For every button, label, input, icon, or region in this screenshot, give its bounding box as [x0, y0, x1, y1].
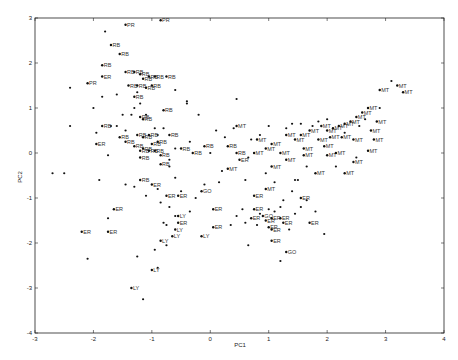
point-label-rb: RB — [121, 51, 129, 57]
point-label-rb: RB — [183, 146, 191, 152]
data-point-marker — [139, 102, 141, 104]
data-point-marker — [326, 118, 328, 120]
y-tick-label: 2 — [29, 60, 33, 66]
data-point-marker — [104, 30, 106, 32]
data-point-marker — [358, 125, 360, 127]
point-label-er: ER — [302, 195, 310, 201]
point-label-er: ER — [83, 229, 91, 235]
data-point-marker — [244, 222, 246, 224]
point-label-mt: MT — [375, 137, 384, 143]
data-point-marker — [107, 154, 109, 156]
data-point-marker — [154, 249, 156, 251]
data-point-marker — [133, 186, 135, 188]
data-point-marker — [69, 87, 71, 89]
point-label-rb: RB — [153, 83, 161, 89]
point-label-mt: MT — [259, 137, 268, 143]
data-point-marker — [189, 210, 191, 212]
data-point-marker — [174, 147, 176, 149]
data-point-marker — [235, 98, 237, 100]
x-tick-label: -3 — [32, 336, 38, 342]
data-point-marker — [390, 80, 392, 82]
point-label-rb: RB — [168, 74, 176, 80]
point-label-rb: RB — [229, 143, 237, 149]
point-label-ly: LY — [203, 233, 210, 239]
point-label-mt: MT — [302, 132, 311, 138]
y-tick-label: 3 — [29, 15, 33, 21]
data-point-marker — [165, 224, 167, 226]
point-label-rb: RB — [150, 132, 158, 138]
data-point-marker — [107, 217, 109, 219]
point-label-mt: MT — [378, 119, 387, 125]
point-label-rb: RB — [142, 155, 150, 161]
point-label-er: ER — [215, 206, 223, 212]
point-label-rb: RB — [104, 123, 112, 129]
data-point-marker — [116, 93, 118, 95]
data-point-marker — [63, 172, 65, 174]
data-point-marker — [282, 199, 284, 201]
point-label-go: GO — [288, 249, 297, 255]
point-label-mt: MT — [288, 132, 297, 138]
point-label-mt: MT — [229, 166, 238, 172]
point-label-mt: MT — [311, 128, 320, 134]
point-label-mt: MT — [405, 89, 414, 95]
point-label-rb: RB — [112, 42, 120, 48]
data-point-marker — [157, 188, 159, 190]
point-label-rb: RB — [206, 143, 214, 149]
point-label-er: ER — [273, 227, 281, 233]
data-point-marker — [294, 179, 296, 181]
point-label-rb: RB — [162, 152, 170, 158]
y-tick-label: 0 — [29, 150, 33, 156]
point-label-ly: LY — [153, 267, 160, 273]
data-point-marker — [291, 123, 293, 125]
point-label-pr: PR — [127, 22, 135, 28]
point-label-mt: MT — [305, 146, 314, 152]
point-label-er: ER — [180, 193, 188, 199]
point-label-rb: RB — [145, 116, 153, 122]
data-point-marker — [294, 213, 296, 215]
y-tick-label: -4 — [27, 330, 33, 336]
point-label-ly: LY — [174, 233, 181, 239]
x-tick-label: 0 — [209, 336, 213, 342]
point-label-mt: MT — [282, 150, 291, 156]
data-point-marker — [133, 107, 135, 109]
point-label-rb: RB — [165, 107, 173, 113]
data-point-marker — [92, 107, 94, 109]
y-tick-label: -3 — [27, 285, 33, 291]
y-tick-label: 1 — [29, 105, 33, 111]
data-point-marker — [379, 107, 381, 109]
data-point-marker — [314, 210, 316, 212]
data-point-marker — [122, 114, 124, 116]
data-point-marker — [51, 172, 53, 174]
point-label-pr: PR — [89, 80, 97, 86]
point-label-mt: MT — [267, 186, 276, 192]
data-point-marker — [300, 123, 302, 125]
point-label-rb: RB — [104, 62, 112, 68]
point-label-er: ER — [267, 218, 275, 224]
data-point-marker — [130, 114, 132, 116]
data-point-marker — [101, 96, 103, 98]
data-point-marker — [285, 127, 287, 129]
data-point-marker — [145, 195, 147, 197]
x-tick-label: 2 — [325, 336, 329, 342]
data-point-marker — [235, 215, 237, 217]
x-tick-label: 4 — [442, 336, 446, 342]
data-point-marker — [168, 206, 170, 208]
data-point-marker — [116, 125, 118, 127]
y-axis-label: PC2 — [17, 171, 23, 183]
point-label-rb: RB — [238, 150, 246, 156]
data-point-marker — [174, 89, 176, 91]
point-label-mt: MT — [317, 170, 326, 176]
point-label-rb: RB — [127, 139, 135, 145]
data-point-marker — [218, 181, 220, 183]
data-point-marker — [297, 179, 299, 181]
data-point-marker — [162, 127, 164, 129]
point-label-mt: MT — [305, 152, 314, 158]
data-point-marker — [95, 132, 97, 134]
data-point-marker — [160, 201, 162, 203]
data-point-marker — [279, 206, 281, 208]
point-label-rb: RB — [194, 150, 202, 156]
point-label-er: ER — [241, 157, 249, 163]
point-label-mt: MT — [370, 148, 379, 154]
data-point-marker — [317, 120, 319, 122]
data-point-marker — [288, 228, 290, 230]
